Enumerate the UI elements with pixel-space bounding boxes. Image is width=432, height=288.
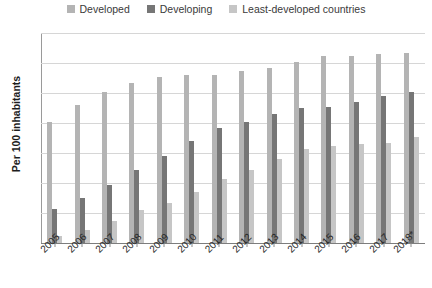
x-label-cell: 2010 — [178, 245, 205, 285]
plot-area: 140120100806040200 — [41, 33, 425, 243]
bar-group — [343, 33, 370, 243]
x-label-cell: 2013 — [260, 245, 287, 285]
bar-least[interactable] — [386, 143, 391, 244]
bar-least[interactable] — [359, 144, 364, 243]
bar-groups — [41, 33, 425, 243]
bar-group — [288, 33, 315, 243]
bar-group — [260, 33, 287, 243]
legend-swatch-developed — [67, 5, 75, 13]
legend-swatch-developing — [147, 5, 155, 13]
bar-least[interactable] — [222, 179, 227, 244]
x-label-cell: 2007 — [96, 245, 123, 285]
bar-least[interactable] — [249, 170, 254, 244]
bar-group — [206, 33, 233, 243]
x-axis-labels: 2005200620072008200920102011201220132014… — [41, 245, 425, 285]
x-label-cell: 2012 — [233, 245, 260, 285]
bar-group — [96, 33, 123, 243]
bar-group — [233, 33, 260, 243]
chart-container: Developed Developing Least-developed cou… — [0, 0, 432, 288]
legend-item-developed[interactable]: Developed — [67, 4, 130, 14]
bar-group — [41, 33, 68, 243]
legend-item-developing[interactable]: Developing — [147, 4, 213, 14]
x-label-cell: 2017 — [370, 245, 397, 285]
legend-label-developed: Developed — [80, 4, 130, 14]
bar-group — [68, 33, 95, 243]
x-label-cell: 2009 — [151, 245, 178, 285]
x-label-cell: 2015 — [315, 245, 342, 285]
legend-label-developing: Developing — [160, 4, 213, 14]
x-label-cell: 2018* — [397, 245, 424, 285]
bar-least[interactable] — [304, 149, 309, 244]
x-label-cell: 2008 — [123, 245, 150, 285]
x-label-cell: 2016 — [343, 245, 370, 285]
y-axis-title: Per 100 inhabitants — [10, 44, 22, 204]
chart-legend: Developed Developing Least-developed cou… — [0, 2, 432, 16]
bar-group — [315, 33, 342, 243]
bar-group — [178, 33, 205, 243]
x-label-cell: 2006 — [68, 245, 95, 285]
bar-group — [370, 33, 397, 243]
bar-least[interactable] — [277, 159, 282, 243]
legend-swatch-least-developed — [229, 5, 237, 13]
x-label-cell: 2011 — [206, 245, 233, 285]
bar-least[interactable] — [331, 146, 336, 244]
legend-item-least-developed[interactable]: Least-developed countries — [229, 4, 365, 14]
bar-group — [151, 33, 178, 243]
legend-label-least-developed: Least-developed countries — [242, 4, 365, 14]
x-label-cell: 2005 — [41, 245, 68, 285]
bar-least[interactable] — [414, 137, 419, 244]
bar-group — [397, 33, 424, 243]
x-label-cell: 2014 — [288, 245, 315, 285]
bar-group — [123, 33, 150, 243]
